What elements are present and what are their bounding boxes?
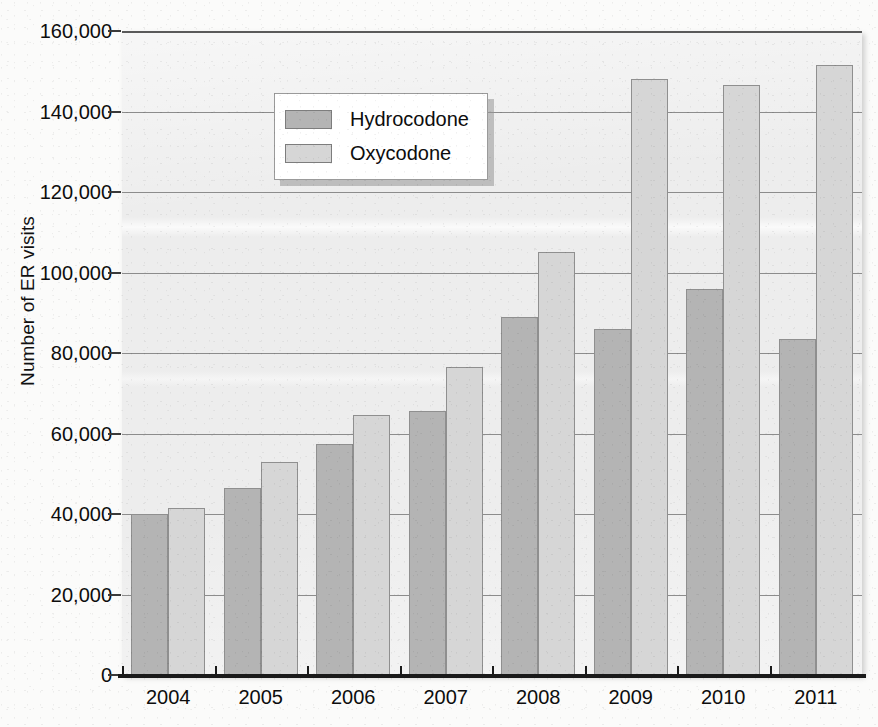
bar-hydrocodone-2006 bbox=[316, 444, 353, 675]
x-tick-label-2010: 2010 bbox=[701, 686, 746, 709]
y-tick-mark-80000 bbox=[108, 352, 121, 354]
x-tick-mark-5 bbox=[585, 666, 587, 675]
legend-label-hydrocodone: Hydrocodone bbox=[350, 108, 469, 131]
bar-oxycodone-2010 bbox=[723, 85, 760, 675]
y-tick-label-0: 0 bbox=[0, 664, 112, 687]
y-tick-label-160000: 160,000 bbox=[0, 20, 112, 43]
x-tick-mark-7 bbox=[770, 666, 772, 675]
y-tick-label-40000: 40,000 bbox=[0, 503, 112, 526]
bar-oxycodone-2009 bbox=[631, 79, 668, 675]
y-tick-label-100000: 100,000 bbox=[0, 261, 112, 284]
y-tick-mark-20000 bbox=[108, 594, 121, 596]
y-tick-mark-100000 bbox=[108, 272, 121, 274]
legend-label-oxycodone: Oxycodone bbox=[350, 142, 451, 165]
x-tick-mark-3 bbox=[400, 666, 402, 675]
x-tick-mark-0 bbox=[122, 666, 124, 675]
x-tick-label-2007: 2007 bbox=[424, 686, 469, 709]
legend-item-hydrocodone: Hydrocodone bbox=[285, 102, 469, 136]
bar-oxycodone-2008 bbox=[538, 252, 575, 675]
x-tick-mark-2 bbox=[307, 666, 309, 675]
bar-hydrocodone-2005 bbox=[224, 488, 261, 675]
x-tick-label-2009: 2009 bbox=[609, 686, 654, 709]
x-tick-mark-1 bbox=[215, 666, 217, 675]
y-tick-mark-140000 bbox=[108, 111, 121, 113]
legend-swatch-oxycodone bbox=[285, 144, 332, 163]
bar-series-layer bbox=[122, 31, 862, 675]
x-tick-mark-6 bbox=[677, 666, 679, 675]
bar-hydrocodone-2009 bbox=[594, 329, 631, 675]
y-tick-mark-160000 bbox=[108, 30, 121, 32]
bar-hydrocodone-2011 bbox=[779, 339, 816, 675]
y-tick-label-80000: 80,000 bbox=[0, 342, 112, 365]
x-tick-label-2006: 2006 bbox=[331, 686, 376, 709]
bar-hydrocodone-2010 bbox=[686, 289, 723, 675]
legend-swatch-hydrocodone bbox=[285, 110, 332, 129]
bar-oxycodone-2006 bbox=[353, 415, 390, 675]
x-tick-mark-4 bbox=[492, 666, 494, 675]
bar-hydrocodone-2004 bbox=[131, 514, 168, 675]
x-tick-label-2008: 2008 bbox=[516, 686, 561, 709]
y-tick-mark-120000 bbox=[108, 191, 121, 193]
bar-hydrocodone-2007 bbox=[409, 411, 446, 675]
x-tick-label-2005: 2005 bbox=[239, 686, 284, 709]
chart-legend: Hydrocodone Oxycodone bbox=[274, 93, 488, 180]
plot-area: Hydrocodone Oxycodone bbox=[122, 31, 862, 675]
bar-oxycodone-2004 bbox=[168, 508, 205, 675]
bar-oxycodone-2011 bbox=[816, 65, 853, 675]
y-tick-mark-60000 bbox=[108, 433, 121, 435]
bar-hydrocodone-2008 bbox=[501, 317, 538, 675]
y-tick-mark-40000 bbox=[108, 513, 121, 515]
y-tick-label-60000: 60,000 bbox=[0, 422, 112, 445]
bar-oxycodone-2005 bbox=[261, 462, 298, 675]
chart-figure: Number of ER visits 020,00040,00060,0008… bbox=[0, 0, 878, 727]
bar-oxycodone-2007 bbox=[446, 367, 483, 675]
legend-item-oxycodone: Oxycodone bbox=[285, 136, 469, 170]
y-axis-tick-labels: 020,00040,00060,00080,000100,000120,0001… bbox=[0, 0, 112, 727]
y-tick-label-20000: 20,000 bbox=[0, 583, 112, 606]
x-tick-label-2011: 2011 bbox=[794, 686, 837, 709]
y-tick-label-140000: 140,000 bbox=[0, 100, 112, 123]
x-tick-label-2004: 2004 bbox=[146, 686, 191, 709]
y-tick-label-120000: 120,000 bbox=[0, 181, 112, 204]
